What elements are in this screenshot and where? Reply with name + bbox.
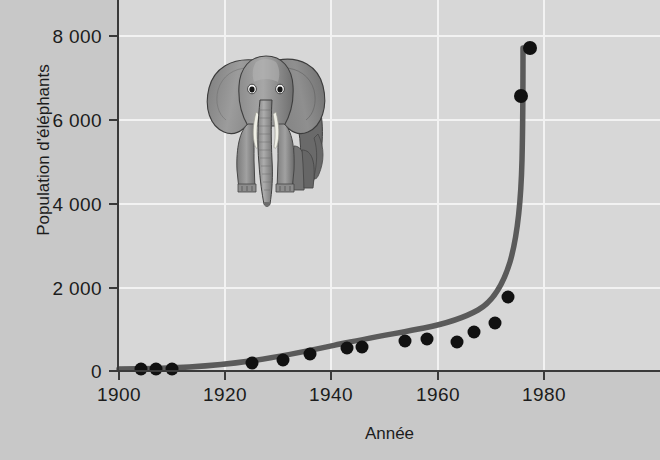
x-tick-label-1980: 1980 bbox=[499, 384, 589, 406]
y-tick-label-2000: 2 000 bbox=[2, 278, 102, 300]
african-elephant-illustration bbox=[198, 38, 334, 208]
x-axis-title: Année bbox=[119, 424, 660, 444]
x-tick-label-1940: 1940 bbox=[286, 384, 376, 406]
elephant-population-chart-figure: 8 000 6 000 4 000 2 000 0 1900 1920 1940… bbox=[0, 0, 660, 460]
gridline-y-8000 bbox=[119, 35, 660, 37]
y-tick-0 bbox=[109, 370, 118, 372]
y-tick-label-0: 0 bbox=[2, 361, 102, 383]
gridline-x-1960 bbox=[437, 0, 439, 371]
x-tick-1940 bbox=[330, 371, 332, 380]
x-axis-line bbox=[117, 370, 660, 372]
x-tick-label-1920: 1920 bbox=[180, 384, 270, 406]
y-tick-2000 bbox=[109, 287, 118, 289]
y-tick-6000 bbox=[109, 119, 118, 121]
y-axis-line bbox=[117, 0, 119, 371]
x-tick-1960 bbox=[437, 371, 439, 380]
y-axis-title: Population d'éléphants bbox=[34, 30, 54, 270]
x-tick-label-1900: 1900 bbox=[74, 384, 164, 406]
y-tick-8000 bbox=[109, 35, 118, 37]
gridline-x-1980 bbox=[543, 0, 545, 371]
x-tick-1900 bbox=[118, 371, 120, 380]
x-tick-1920 bbox=[224, 371, 226, 380]
x-tick-label-1960: 1960 bbox=[393, 384, 483, 406]
gridline-y-2000 bbox=[119, 287, 660, 289]
y-tick-4000 bbox=[109, 203, 118, 205]
x-tick-1980 bbox=[543, 371, 545, 380]
plot-area bbox=[119, 0, 660, 371]
